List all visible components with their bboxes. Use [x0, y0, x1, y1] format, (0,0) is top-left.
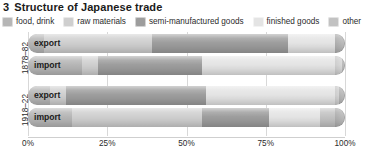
stacked-bar[interactable] — [28, 34, 345, 53]
bar-segment[interactable] — [98, 56, 203, 75]
axis-baseline — [28, 137, 345, 138]
bar-row-import: import — [28, 108, 345, 127]
bar-row-import: import — [28, 56, 345, 75]
legend-swatch-icon — [63, 17, 74, 27]
bar-segment[interactable] — [342, 56, 345, 75]
bar-segment[interactable] — [28, 108, 72, 127]
bar-segment[interactable] — [288, 34, 336, 53]
bar-segment[interactable] — [82, 56, 98, 75]
legend-item-semi_manufactured[interactable]: semi-manufactured goods — [135, 17, 244, 27]
bar-segment[interactable] — [339, 86, 345, 105]
legend-item-label: semi-manufactured goods — [149, 17, 244, 26]
legend-item-other[interactable]: other — [328, 17, 361, 27]
axis-tick-label: 0% — [22, 139, 34, 148]
bar-segment[interactable] — [152, 34, 288, 53]
legend-item-raw_materials[interactable]: raw materials — [63, 17, 126, 27]
bar-segment[interactable] — [72, 108, 202, 127]
legend-item-label: food, drink — [16, 17, 54, 26]
axis-tick-label: 100% — [335, 139, 356, 148]
legend-swatch-icon — [328, 17, 339, 27]
chart-legend: food, drinkraw materialssemi-manufacture… — [2, 15, 366, 28]
legend-item-label: finished goods — [267, 17, 320, 26]
legend-swatch-icon — [2, 17, 13, 27]
axis-tick-label: 75% — [258, 139, 274, 148]
legend-swatch-icon — [253, 17, 264, 27]
page-title: 3Structure of Japanese trade — [3, 1, 162, 13]
stacked-bar[interactable] — [28, 108, 345, 127]
legend-item-finished_goods[interactable]: finished goods — [253, 17, 320, 27]
legend-item-food_drink[interactable]: food, drink — [2, 17, 54, 27]
axis-tick-label: 50% — [178, 139, 194, 148]
bar-segment[interactable] — [320, 108, 345, 127]
bar-segment[interactable] — [202, 56, 341, 75]
chart-plot-area: 1878–82exportimport1918–22exportimport — [28, 32, 345, 136]
stacked-bar[interactable] — [28, 56, 345, 75]
bar-segment[interactable] — [28, 34, 44, 53]
bar-segment[interactable] — [28, 86, 50, 105]
bar-segment[interactable] — [50, 86, 66, 105]
bar-row-export: export — [28, 34, 345, 53]
gridline-100 — [345, 32, 346, 136]
bar-segment[interactable] — [44, 34, 152, 53]
axis-tick-label: 25% — [99, 139, 115, 148]
bar-segment[interactable] — [28, 56, 82, 75]
legend-item-label: other — [342, 17, 361, 26]
bar-segment[interactable] — [206, 86, 339, 105]
x-axis: 0%25%50%75%100% — [28, 137, 345, 153]
bar-segment[interactable] — [66, 86, 205, 105]
legend-swatch-icon — [135, 17, 146, 27]
title-text: Structure of Japanese trade — [14, 1, 162, 13]
bar-row-export: export — [28, 86, 345, 105]
legend-item-label: raw materials — [77, 17, 126, 26]
title-number: 3 — [3, 1, 9, 13]
bar-segment[interactable] — [202, 108, 269, 127]
stacked-bar[interactable] — [28, 86, 345, 105]
bar-segment[interactable] — [269, 108, 320, 127]
bar-segment[interactable] — [335, 34, 345, 53]
